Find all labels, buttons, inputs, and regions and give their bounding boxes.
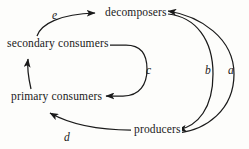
edge-path-d [50, 113, 131, 130]
edge-path-a [168, 11, 234, 133]
edge-label-c: c [146, 64, 151, 76]
node-label-decomposers: decomposers [104, 6, 168, 18]
edge-label-a: a [228, 64, 234, 76]
diagram-canvas [0, 0, 249, 149]
node-label-secondary-consumers: secondary consumers [6, 37, 110, 49]
edge-path-vertical [28, 59, 31, 89]
node-label-producers: producers [133, 123, 182, 135]
edge-label-b: b [205, 64, 211, 76]
node-label-primary-consumers: primary consumers [10, 90, 103, 102]
edge-label-d: d [64, 131, 70, 143]
ecosystem-energy-flow-diagram: decomposers secondary consumers primary … [0, 0, 249, 149]
edge-path-c [101, 45, 147, 96]
edge-path-e [37, 13, 95, 36]
edge-label-e: e [52, 9, 57, 21]
